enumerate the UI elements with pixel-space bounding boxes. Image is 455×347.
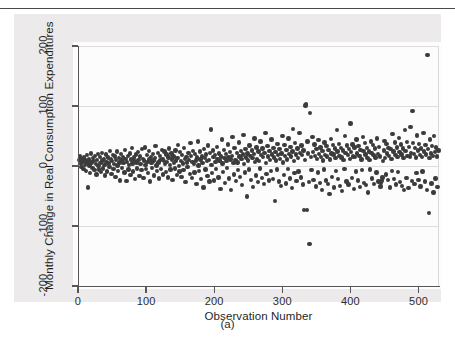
gridline-y-200 (78, 46, 439, 47)
x-ticklabel-0: 0 (56, 295, 100, 307)
scatter-point (423, 179, 427, 183)
scatter-point (241, 133, 245, 137)
scatter-point (258, 139, 262, 143)
scatter-point (310, 135, 314, 139)
scatter-point (282, 173, 286, 177)
figure-root: -200-1000100200 0100200300400500 Monthly… (0, 0, 455, 347)
gridline-y--100 (78, 226, 439, 227)
scatter-point (305, 208, 309, 212)
scatter-point (384, 172, 388, 176)
scatter-point (312, 142, 316, 146)
scatter-point (263, 131, 267, 135)
x-ticklabel-100: 100 (124, 295, 168, 307)
scatter-point (143, 145, 147, 149)
scatter-point (431, 190, 435, 194)
scatter-point (346, 182, 350, 186)
scatter-point (356, 178, 360, 182)
x-tick-400 (350, 287, 351, 293)
scatter-point (301, 148, 305, 152)
scatter-point (332, 185, 336, 189)
scatter-point (245, 194, 249, 198)
scatter-point (205, 174, 209, 178)
scatter-point (408, 125, 412, 129)
scatter-point (288, 176, 292, 180)
x-tick-100 (145, 287, 146, 293)
scatter-point (126, 167, 130, 171)
scatter-point (328, 157, 332, 161)
scatter-point (420, 169, 424, 173)
scatter-point (421, 131, 425, 135)
scatter-point (190, 176, 194, 180)
scatter-point (366, 190, 370, 194)
scatter-point (216, 175, 220, 179)
scatter-point (269, 169, 273, 173)
scatter-point (264, 172, 268, 176)
x-ticklabel-500: 500 (397, 295, 441, 307)
scatter-point (429, 181, 433, 185)
x-tick-200 (214, 287, 215, 293)
scatter-point (207, 179, 211, 183)
x-tick-500 (418, 287, 419, 293)
scatter-point (192, 170, 196, 174)
scatter-point (232, 172, 236, 176)
scatter-point (226, 142, 230, 146)
scatter-point (282, 143, 286, 147)
scatter-point (435, 185, 439, 189)
scatter-point (273, 199, 277, 203)
scatter-point (416, 178, 420, 182)
scatter-point (118, 178, 122, 182)
scatter-point (252, 152, 256, 156)
scatter-point (359, 157, 363, 161)
y-axis-title: Monthly Change in Real Consumption Expen… (43, 40, 55, 290)
scatter-point (275, 142, 279, 146)
scatter-point (254, 173, 258, 177)
scatter-point (237, 140, 241, 144)
scatter-point (218, 187, 222, 191)
scatter-point (354, 137, 358, 141)
y-axis-spine (78, 46, 79, 287)
scatter-point (329, 137, 333, 141)
scatter-point (206, 143, 210, 147)
figure-panel: -200-1000100200 0100200300400500 Monthly… (14, 14, 441, 302)
scatter-point (209, 127, 213, 131)
y-tick-100 (72, 105, 78, 106)
scatter-point (239, 157, 243, 161)
scatter-point (280, 134, 284, 138)
scatter-point (311, 178, 315, 182)
scatter-point (354, 169, 358, 173)
scatter-point (194, 182, 198, 186)
scatter-point (289, 154, 293, 158)
scatter-point (352, 187, 356, 191)
scatter-point (220, 137, 224, 141)
scatter-point (141, 176, 145, 180)
scatter-point (252, 136, 256, 140)
scatter-point (247, 167, 251, 171)
scatter-point (188, 141, 192, 145)
scatter-point (301, 182, 305, 186)
scatter-point (327, 192, 331, 196)
x-axis-spine (78, 286, 440, 287)
scatter-point (418, 184, 422, 188)
scatter-point (286, 136, 290, 140)
scatter-point (433, 176, 437, 180)
x-tick-0 (77, 287, 78, 293)
scatter-point (406, 186, 410, 190)
scatter-point (265, 144, 269, 148)
scatter-point (393, 140, 397, 144)
scatter-point (404, 176, 408, 180)
scatter-point (410, 109, 414, 113)
scatter-point (235, 160, 239, 164)
x-ticklabel-300: 300 (260, 295, 304, 307)
scatter-point (318, 181, 322, 185)
scatter-point (427, 211, 431, 215)
scatter-point (166, 175, 170, 179)
scatter-point (386, 178, 390, 182)
scatter-point (436, 148, 440, 152)
y-tick--100 (72, 225, 78, 226)
figure-caption: (a) (0, 318, 455, 330)
scatter-point (307, 242, 311, 246)
y-tick-200 (72, 45, 78, 46)
scatter-point (128, 151, 132, 155)
scatter-point (179, 175, 183, 179)
scatter-point (201, 185, 205, 189)
